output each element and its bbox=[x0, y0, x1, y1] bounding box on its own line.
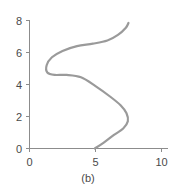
x-tick-label-5: 5 bbox=[92, 156, 98, 168]
axes-group bbox=[29, 20, 168, 149]
y-tick-label-2: 2 bbox=[16, 111, 22, 123]
y-tick-labels: 8 6 4 2 0 bbox=[16, 15, 22, 155]
data-curve-series-0 bbox=[46, 23, 128, 149]
x-tick-label-10: 10 bbox=[155, 156, 167, 168]
chart-plot: 8 6 4 2 0 0 5 10 (b) bbox=[0, 0, 175, 186]
y-tick-label-8: 8 bbox=[16, 15, 22, 27]
y-tick-marks bbox=[26, 21, 29, 149]
y-tick-label-4: 4 bbox=[16, 79, 22, 91]
x-tick-labels: 0 5 10 bbox=[26, 156, 167, 168]
figure-caption: (b) bbox=[81, 172, 94, 184]
y-tick-label-0: 0 bbox=[16, 143, 22, 155]
figure-panel-b: 8 6 4 2 0 0 5 10 (b) bbox=[0, 0, 175, 186]
x-tick-label-0: 0 bbox=[26, 156, 32, 168]
y-tick-label-6: 6 bbox=[16, 47, 22, 59]
